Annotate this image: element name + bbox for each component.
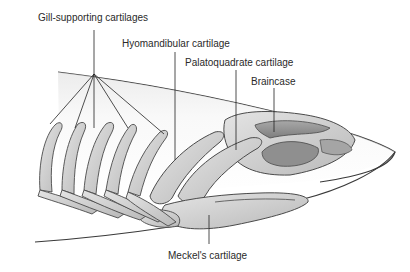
label-hyomandibular-cartilage: Hyomandibular cartilage: [122, 39, 230, 49]
shark-skull-diagram: Gill-supporting cartilages Hyomandibular…: [0, 0, 410, 272]
label-braincase: Braincase: [251, 77, 295, 87]
label-meckels-cartilage: Meckel's cartilage: [168, 251, 247, 261]
label-gill-supporting-cartilages: Gill-supporting cartilages: [38, 13, 148, 23]
label-palatoquadrate-cartilage: Palatoquadrate cartilage: [185, 58, 293, 68]
